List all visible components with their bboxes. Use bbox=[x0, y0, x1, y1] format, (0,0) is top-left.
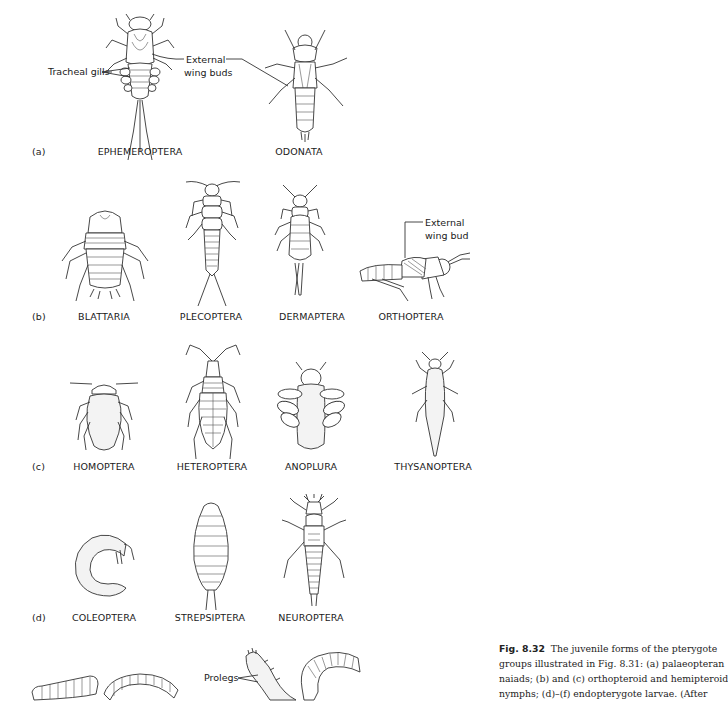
tracheal-gills-leader bbox=[100, 65, 140, 85]
specimen-label-anoplura: ANOPLURA bbox=[285, 461, 337, 472]
external-wing-buds-leader bbox=[150, 50, 300, 100]
specimen-label-coleoptera: COLEOPTERA bbox=[72, 612, 136, 623]
caption-line-3: naiads; (b) and (c) orthopteroid and hem… bbox=[499, 671, 699, 686]
blattaria-illustration bbox=[60, 205, 150, 305]
specimen-label-odonata: ODONATA bbox=[275, 146, 322, 157]
orthoptera-wing-bud-label-2: wing bud bbox=[425, 229, 469, 242]
specimen-label-blattaria: BLATTARIA bbox=[78, 311, 130, 322]
specimen-label-heteroptera: HETEROPTERA bbox=[177, 461, 247, 472]
specimen-label-strepsiptera: STREPSIPTERA bbox=[175, 612, 245, 623]
specimen-label-neuroptera: NEUROPTERA bbox=[278, 612, 343, 623]
coleoptera-illustration bbox=[70, 530, 140, 600]
specimen-label-ephemeroptera: EPHEMEROPTERA bbox=[98, 146, 183, 157]
figure-number: Fig. 8.32 bbox=[499, 643, 545, 654]
strepsiptera-illustration bbox=[186, 500, 236, 612]
specimen-label-thysanoptera: THYSANOPTERA bbox=[394, 461, 472, 472]
homoptera-illustration bbox=[68, 380, 140, 456]
specimen-label-dermaptera: DERMAPTERA bbox=[279, 311, 345, 322]
dermaptera-illustration bbox=[265, 185, 335, 305]
larva-2-illustration bbox=[100, 670, 180, 700]
larva-1-illustration bbox=[30, 672, 100, 700]
panel-label-b: (b) bbox=[32, 311, 46, 322]
larva-4-illustration bbox=[294, 648, 364, 700]
caption-line-4: nymphs; (d)–(f) endopterygote larvae. (A… bbox=[499, 686, 699, 701]
panel-label-d: (d) bbox=[32, 612, 46, 623]
neuroptera-illustration bbox=[278, 494, 350, 610]
caption-line-2: groups illustrated in Fig. 8.31: (a) pal… bbox=[499, 656, 699, 671]
orthoptera-wing-bud-leader bbox=[400, 220, 430, 260]
plecoptera-illustration bbox=[172, 178, 252, 308]
prolegs-label: Prolegs bbox=[204, 671, 239, 684]
anoplura-illustration bbox=[272, 360, 352, 460]
prolegs-leader bbox=[238, 672, 260, 686]
specimen-label-orthoptera: ORTHOPTERA bbox=[378, 311, 443, 322]
caption-line-1: The juvenile forms of the pterygote bbox=[551, 643, 718, 654]
heteroptera-illustration bbox=[180, 343, 246, 463]
panel-label-a: (a) bbox=[32, 146, 46, 157]
panel-label-c: (c) bbox=[32, 461, 45, 472]
thysanoptera-illustration bbox=[400, 350, 470, 460]
figure-caption: Fig. 8.32 The juvenile forms of the pter… bbox=[499, 641, 699, 701]
specimen-label-homoptera: HOMOPTERA bbox=[73, 461, 134, 472]
orthoptera-wing-bud-label-1: External bbox=[425, 216, 464, 229]
specimen-label-plecoptera: PLECOPTERA bbox=[180, 311, 242, 322]
